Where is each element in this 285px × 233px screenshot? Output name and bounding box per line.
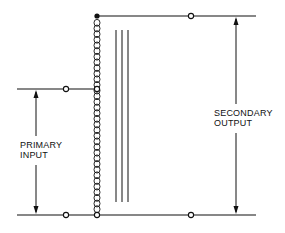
coil-tap-icon xyxy=(94,86,99,91)
arrowhead-up-icon xyxy=(234,17,239,25)
secondary-label-line1: SECONDARY xyxy=(214,108,273,118)
primary-label-line2: INPUT xyxy=(20,150,62,160)
coil-winding xyxy=(94,19,100,212)
secondary-bottom-terminal-icon xyxy=(188,212,193,217)
arrowhead-up-icon xyxy=(34,90,39,98)
iron-core xyxy=(116,30,128,202)
secondary-label-line2: OUTPUT xyxy=(214,118,273,128)
coil-top-dot-icon xyxy=(94,13,99,18)
arrowhead-down-icon xyxy=(234,206,239,214)
primary-label-line1: PRIMARY xyxy=(20,140,62,150)
coil-bottom-node-icon xyxy=(94,212,99,217)
primary-top-terminal-icon xyxy=(63,86,68,91)
secondary-top-terminal-icon xyxy=(188,13,193,18)
arrowhead-down-icon xyxy=(34,206,39,214)
secondary-output-label: SECONDARY OUTPUT xyxy=(214,108,273,128)
primary-bottom-terminal-icon xyxy=(63,212,68,217)
primary-input-label: PRIMARY INPUT xyxy=(20,140,62,160)
